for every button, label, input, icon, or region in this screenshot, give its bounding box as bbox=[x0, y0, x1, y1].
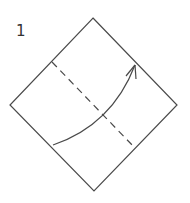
valley-fold-line bbox=[52, 62, 135, 148]
square-paper bbox=[10, 18, 177, 191]
origami-diagram bbox=[0, 0, 190, 203]
